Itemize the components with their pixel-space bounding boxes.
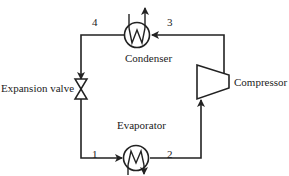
compressor-label: Compressor [234,77,287,88]
pipe-1 [81,98,122,158]
state-point-4: 4 [92,17,98,28]
condenser-icon [125,8,150,48]
expansion-valve-label: Expansion valve [1,83,74,94]
state-point-3: 3 [167,17,173,28]
expansion-valve-icon [75,79,87,99]
evaporator-label: Evaporator [117,120,166,131]
state-point-1: 1 [92,149,98,160]
state-point-2: 2 [167,149,173,160]
evaporator-icon [124,146,149,176]
pipe-4 [81,35,124,79]
condenser-label: Condenser [125,53,172,64]
